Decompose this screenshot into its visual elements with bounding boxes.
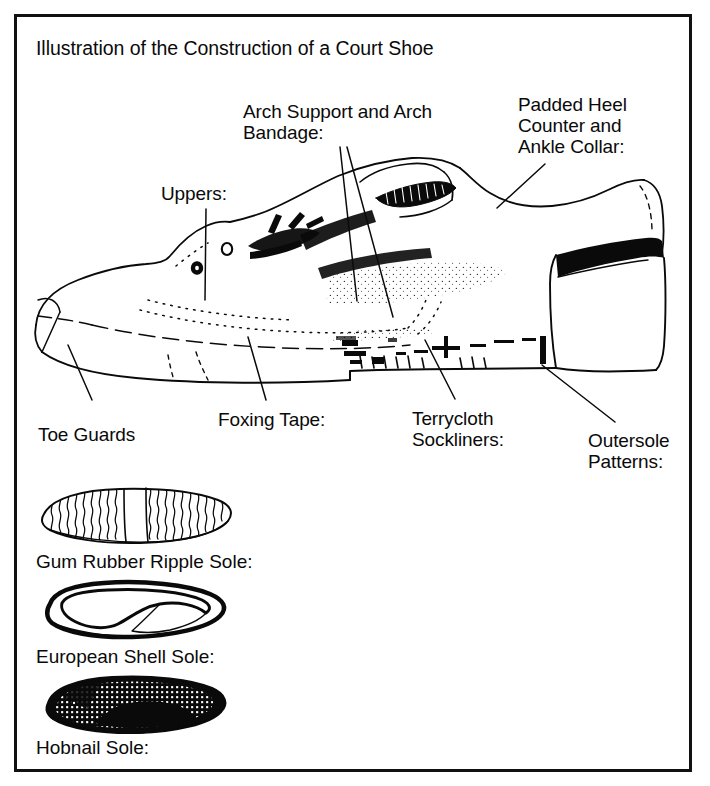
terrycloth-sockliner [332,328,432,344]
eyelets [191,243,232,274]
foxing-tape [168,352,208,380]
shell-sole-illustration [47,582,224,637]
shoe-line-art [0,0,710,786]
tongue-outline [360,163,444,182]
tongue-logo-patch [376,182,456,207]
hobnail-sole-illustration [46,676,225,733]
ripple-sole-illustration [42,488,231,547]
outersole-pattern [336,336,546,364]
collar-padding-edge [640,186,652,232]
heel-counter-band [556,238,664,277]
illustration-page: Illustration of the Construction of a Co… [0,0,710,786]
toe-guard [38,299,92,353]
